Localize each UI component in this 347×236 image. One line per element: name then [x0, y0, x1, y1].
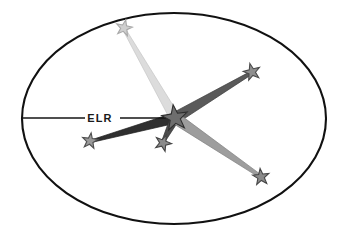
- rays-group: [92, 28, 261, 177]
- ray-to-star-bottom-right: [172, 113, 261, 177]
- diagram-canvas: ELR: [0, 0, 347, 236]
- ray-to-star-top: [123, 28, 180, 120]
- elr-label: ELR: [87, 112, 112, 124]
- elr-star-diagram: ELR: [0, 0, 347, 236]
- star-node-top: [117, 20, 133, 36]
- star-node-lower-left: [83, 133, 98, 148]
- star-node-lower-middle: [156, 135, 172, 151]
